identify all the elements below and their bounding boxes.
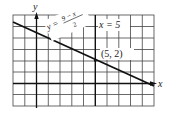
y-axis-arrow-icon bbox=[34, 12, 38, 19]
y-axis-label: y bbox=[32, 1, 38, 12]
graph: y x x = 5 (5, 2) y = 9 − x 2 bbox=[0, 0, 170, 118]
point-label: (5, 2) bbox=[101, 48, 123, 60]
grid bbox=[13, 15, 154, 106]
x-axis-label: x bbox=[157, 78, 163, 89]
vertical-line-label: x = 5 bbox=[98, 19, 120, 30]
equation-label: y = 9 − x 2 bbox=[43, 3, 92, 41]
point-5-2 bbox=[94, 59, 97, 62]
